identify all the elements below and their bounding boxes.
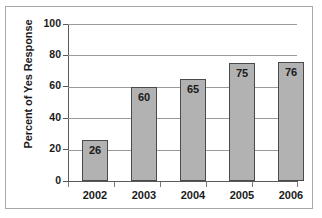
bar-value-2002: 26 (83, 144, 107, 156)
bar-value-2004: 65 (181, 83, 205, 95)
y-tick-label-0: 0 (21, 175, 61, 186)
x-tick-mark-3 (206, 182, 207, 187)
x-tick-label-2004: 2004 (169, 189, 217, 202)
x-tick-mark-4 (252, 182, 253, 187)
y-tick-label-80: 80 (21, 49, 61, 60)
x-tick-label-2003: 2003 (120, 189, 168, 202)
x-tick-mark-1 (114, 182, 115, 187)
bar-2002[interactable]: 26 (82, 140, 108, 181)
bar-value-2005: 75 (230, 67, 254, 79)
x-tick-mark-0 (68, 182, 69, 187)
y-tick-label-60: 60 (21, 80, 61, 91)
y-axis-tick-labels: 100 80 60 40 20 0 (18, 0, 61, 218)
plot-area: 26 60 65 75 76 (68, 24, 297, 181)
bar-2004[interactable]: 65 (180, 79, 206, 181)
x-tick-label-2002: 2002 (71, 189, 119, 202)
gridline-100 (68, 24, 297, 25)
x-tick-mark-2 (160, 182, 161, 187)
bar-chart-figure: Percent of Yes Response 100 80 60 40 20 … (0, 0, 322, 218)
bar-2005[interactable]: 75 (229, 63, 255, 181)
y-tick-label-100: 100 (21, 18, 61, 29)
bar-2006[interactable]: 76 (278, 62, 304, 181)
x-axis-line (68, 181, 298, 182)
bar-2003[interactable]: 60 (131, 87, 157, 181)
x-tick-label-2005: 2005 (218, 189, 266, 202)
y-tick-label-20: 20 (21, 143, 61, 154)
x-tick-label-2006: 2006 (267, 189, 315, 202)
gridline-80 (68, 55, 297, 56)
bar-value-2003: 60 (132, 91, 156, 103)
y-tick-label-40: 40 (21, 112, 61, 123)
x-tick-mark-5 (297, 182, 298, 187)
bar-value-2006: 76 (279, 66, 303, 78)
